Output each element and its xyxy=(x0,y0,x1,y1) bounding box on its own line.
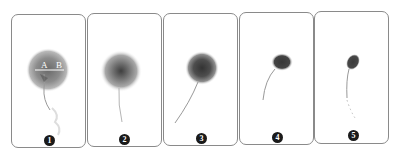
stage-5-drop xyxy=(344,52,362,118)
badge-1: 1 xyxy=(44,135,55,146)
figure-art xyxy=(0,0,397,155)
stage-1-drop xyxy=(26,48,70,135)
badge-2: 2 xyxy=(119,134,130,145)
label-a: A xyxy=(41,60,48,70)
label-b: B xyxy=(56,60,62,70)
stage-2-drop xyxy=(100,50,142,122)
badge-5: 5 xyxy=(348,130,359,141)
stage-3-drop xyxy=(175,51,219,123)
badge-4: 4 xyxy=(272,132,283,143)
badge-3: 3 xyxy=(196,133,207,144)
stage-4-drop xyxy=(263,53,293,100)
